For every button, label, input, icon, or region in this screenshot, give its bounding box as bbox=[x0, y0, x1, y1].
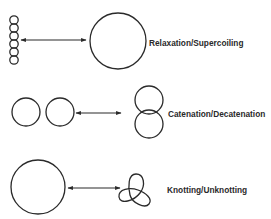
supercoiled-dna-figure bbox=[10, 16, 18, 64]
row-knotting-unknotting: Knotting/Unknotting bbox=[11, 160, 247, 214]
knotting-unknotting-label: Knotting/Unknotting bbox=[167, 185, 247, 195]
row-relaxation-supercoiling: Relaxation/Supercoiling bbox=[10, 13, 244, 69]
catenation-decatenation-label: Catenation/Decatenation bbox=[168, 109, 265, 119]
two-separate-circles-figure bbox=[12, 98, 74, 126]
row-catenation-decatenation: Catenation/Decatenation bbox=[12, 86, 265, 138]
topoisomerase-reactions-diagram: Relaxation/Supercoiling Catenation/Decat… bbox=[0, 0, 271, 219]
trefoil-knot-figure bbox=[119, 174, 150, 206]
catenated-circles-figure bbox=[135, 86, 163, 138]
relaxed-circle-figure bbox=[90, 13, 146, 69]
relaxation-supercoiling-label: Relaxation/Supercoiling bbox=[149, 38, 244, 48]
unknotted-circle-figure bbox=[11, 160, 65, 214]
